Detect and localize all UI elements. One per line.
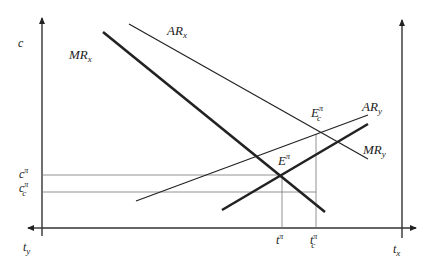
mr-y-curve [222, 124, 368, 210]
mr-x-label: MRx [68, 47, 92, 64]
ar-x-label: ARx [166, 23, 187, 40]
t-c-pi-label: tπc [310, 232, 318, 250]
e-pi-label: Eπ [277, 152, 291, 168]
two-sided-market-diagram: ARx MRx ARy MRy Eπc Eπ c cπ cπc ty tx tπ… [0, 0, 435, 268]
t-y-label: ty [23, 240, 30, 256]
ar-x-curve [129, 24, 368, 159]
ar-y-curve [136, 115, 368, 201]
mr-y-label: MRy [362, 142, 386, 159]
c-pi-label: cπ [19, 166, 29, 181]
mr-x-curve [103, 32, 325, 212]
e-c-pi-label: Eπc [310, 104, 324, 123]
ar-y-label: ARy [361, 99, 382, 116]
c-c-pi-label: cπc [19, 180, 29, 198]
c-axis-label: c [18, 36, 24, 50]
t-pi-label: tπ [276, 232, 284, 247]
t-x-label: tx [393, 242, 400, 258]
